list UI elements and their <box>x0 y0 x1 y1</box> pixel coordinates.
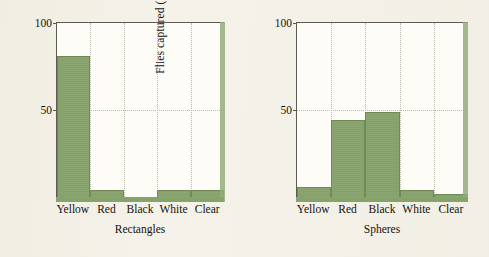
x-label-rectangles-red: Red <box>90 203 124 215</box>
bar-series-spheres <box>297 23 468 197</box>
bar-spheres-yellow <box>297 187 331 197</box>
x-label-spheres-clear: Clear <box>434 203 468 215</box>
panel-caption-rectangles: Rectangles <box>56 223 224 235</box>
x-axis-baseline-rectangles <box>56 197 224 202</box>
y-tick-label-100-spheres: 100 <box>275 17 292 29</box>
y-tick-label-100-rectangles: 100 <box>35 17 52 29</box>
x-label-spheres-black: Black <box>365 203 399 215</box>
bar-spheres-black <box>365 112 399 197</box>
bar-rectangles-red <box>90 190 123 197</box>
plot-area-rectangles: 100 50 <box>56 22 224 197</box>
panel-caption-spheres: Spheres <box>296 223 468 235</box>
x-axis-baseline-spheres <box>296 197 468 202</box>
chart-panel-spheres: Flies captured (% of total) 100 50 Yello… <box>244 0 489 257</box>
x-label-rectangles-clear: Clear <box>190 203 224 215</box>
plot-right-edge-band-spheres <box>463 22 468 202</box>
bar-rectangles-white <box>157 190 190 197</box>
x-label-rectangles-yellow: Yellow <box>56 203 90 215</box>
y-tick-label-50-rectangles: 50 <box>41 104 53 116</box>
bar-spheres-red <box>331 120 365 197</box>
bar-rectangles-yellow <box>57 56 90 197</box>
y-tick-label-50-spheres: 50 <box>281 104 293 116</box>
x-label-rectangles-white: White <box>157 203 191 215</box>
figure-panels: Flies captured (% of total) 100 50 <box>0 0 489 257</box>
chart-panel-rectangles: Flies captured (% of total) 100 50 <box>0 0 244 257</box>
x-label-spheres-white: White <box>399 203 433 215</box>
x-label-rectangles-black: Black <box>123 203 157 215</box>
x-label-spheres-red: Red <box>330 203 364 215</box>
y-axis-title-spheres: Flies captured (% of total) <box>154 0 170 112</box>
plot-right-edge-band-rectangles <box>220 22 225 202</box>
x-axis-labels-rectangles: Yellow Red Black White Clear <box>56 203 224 215</box>
bar-series-rectangles <box>57 23 224 197</box>
plot-area-spheres: 100 50 <box>296 22 468 197</box>
x-axis-labels-spheres: Yellow Red Black White Clear <box>296 203 468 215</box>
x-label-spheres-yellow: Yellow <box>296 203 330 215</box>
bar-spheres-white <box>400 190 434 197</box>
